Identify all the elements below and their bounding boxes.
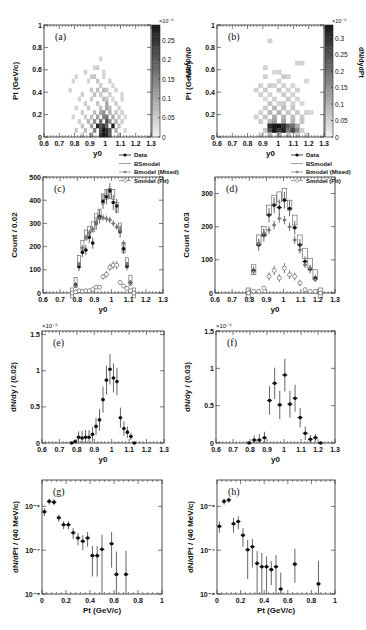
heatmap-cell (286, 128, 291, 133)
heatmap-cell (99, 119, 102, 124)
x-tick-label: 1 (282, 296, 286, 303)
legend-label: Data (306, 152, 320, 158)
y-tick-label: 400 (29, 197, 41, 204)
x-tick-label: 1 (160, 597, 164, 604)
y-tick-label: 10⁻⁸ (25, 591, 40, 598)
y-tick-label: 0.4 (205, 89, 215, 96)
heatmap-cell (102, 74, 105, 79)
y-tick-label: 1 (36, 367, 40, 374)
heatmap-cell (81, 124, 84, 129)
x-tick-label: 0.6 (39, 140, 49, 147)
heatmap-cell (93, 119, 96, 124)
heatmap-cell (267, 101, 272, 106)
x-axis-label: y0 (99, 305, 108, 314)
x-axis-label: Pt (GeV/c) (83, 606, 122, 615)
heatmap-cell (78, 119, 81, 124)
y-tick-label: 10⁻⁷ (200, 547, 215, 554)
heatmap-cell (267, 92, 272, 97)
x-tick-label: 0.8 (307, 597, 317, 604)
x-tick-label: 0 (40, 597, 44, 604)
y-tick-label: 0 (36, 440, 40, 447)
heatmap-cell (272, 70, 277, 75)
y-tick-label: 0.6 (32, 66, 42, 73)
heatmap-cell (123, 115, 126, 120)
heatmap-cell (258, 92, 263, 97)
heatmap-cell (108, 119, 111, 124)
heatmap-cell (102, 115, 105, 120)
y-tick-label: 100 (201, 256, 213, 263)
heatmap-cell (120, 119, 123, 124)
heatmap-cell (84, 101, 87, 106)
heatmap-cell (108, 92, 111, 97)
heatmap-cell (111, 124, 114, 129)
heatmap-cell (277, 133, 282, 138)
y-tick-label: 1 (211, 22, 215, 29)
panel-e: 0.60.70.80.911.11.21.3y000.511.5dN/dy / … (9, 323, 169, 464)
heatmap-cell (105, 124, 108, 129)
panel-label: (d) (226, 183, 238, 195)
heatmap-cell (108, 79, 111, 84)
x-axis-label: Pt (GeV/c) (257, 606, 296, 615)
heatmap-cell (99, 56, 102, 61)
heatmap-cell (277, 128, 282, 133)
colorbar-tick-label: 0 (335, 134, 339, 141)
legend-entry: Bmodel (Mixed) (291, 169, 351, 175)
heatmap-cell (99, 106, 102, 111)
heatmap-cell (123, 128, 126, 133)
x-tick-label: 0.6 (109, 597, 119, 604)
heatmap-cell (90, 97, 93, 102)
x-tick-label: 1.2 (304, 140, 314, 147)
y-tick-label: 10⁻⁸ (200, 591, 215, 598)
heatmap-cell (87, 79, 90, 84)
y-tick-label: 1.5 (30, 331, 40, 338)
heatmap-cell (114, 128, 117, 133)
heatmap-cell (286, 110, 291, 115)
colorbar-tick-label: 0.05 (162, 114, 175, 121)
x-tick-label: 1 (276, 140, 280, 147)
x-tick-label: 1 (282, 446, 286, 453)
y-tick-label: 0 (211, 134, 215, 141)
x-axis-label: y0 (266, 149, 275, 158)
y-axis-label: dN/dPt / (40 MeV/c) (186, 501, 195, 573)
heatmap-cell (267, 124, 272, 129)
heatmap-cell (277, 124, 282, 129)
panel-label: (f) (227, 337, 237, 349)
heatmap-cell (290, 106, 295, 111)
heatmap-cell (120, 110, 123, 115)
heatmap-cell (81, 92, 84, 97)
heatmap-cell (111, 115, 114, 120)
series-data (217, 497, 321, 594)
heatmap-cell (90, 115, 93, 120)
heatmap-cell (300, 61, 305, 66)
heatmap-cell (277, 79, 282, 84)
x-tick-label: 0.6 (38, 296, 48, 303)
colorbar-tick-label: 0.2 (335, 68, 344, 75)
colorbar-exponent: ×10⁻⁶ (332, 18, 347, 24)
panel-g: 00.20.40.60.81Pt (GeV/c)10⁻⁸10⁻⁷10⁻⁶dN/d… (11, 480, 164, 615)
panel-label: (a) (55, 31, 66, 43)
heatmap-cell (267, 38, 272, 43)
x-tick-label: 1.1 (296, 296, 306, 303)
legend-entry: Bmodel (Mixed) (119, 169, 179, 175)
heatmap-cell (304, 110, 309, 115)
heatmap-cell (102, 124, 105, 129)
heatmap-cell (304, 133, 309, 138)
x-tick-label: 0.8 (245, 446, 255, 453)
x-tick-label: 0.6 (210, 296, 220, 303)
y-tick-label: 10⁻⁶ (200, 503, 215, 510)
colorbar-tick-label: 0.25 (335, 51, 348, 58)
x-tick-label: 0.4 (259, 597, 269, 604)
y-tick-label: 1 (210, 365, 214, 372)
heatmap-cell (105, 106, 108, 111)
heatmap-cell (304, 79, 309, 84)
heatmap-cell (295, 97, 300, 102)
heatmap-cell (105, 97, 108, 102)
legend-entry: BSmodel (119, 161, 160, 167)
heatmap-cell (263, 74, 268, 79)
y-axis-label: Pt (GeV/c) (11, 62, 20, 101)
y-axis-label: Pt (GeV/c) (184, 62, 193, 101)
y-tick-label: 0.8 (205, 44, 215, 51)
heatmap-cell (75, 128, 78, 133)
x-tick-label: 1 (333, 597, 337, 604)
x-tick-label: 1.3 (158, 296, 168, 303)
